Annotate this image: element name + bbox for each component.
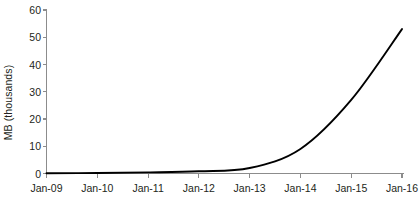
plot-area xyxy=(0,0,419,205)
tick-marks xyxy=(43,10,402,178)
data-series-line xyxy=(47,29,403,173)
chart-container: MB (thousands) 0102030405060 Jan-09Jan-1… xyxy=(0,0,419,205)
